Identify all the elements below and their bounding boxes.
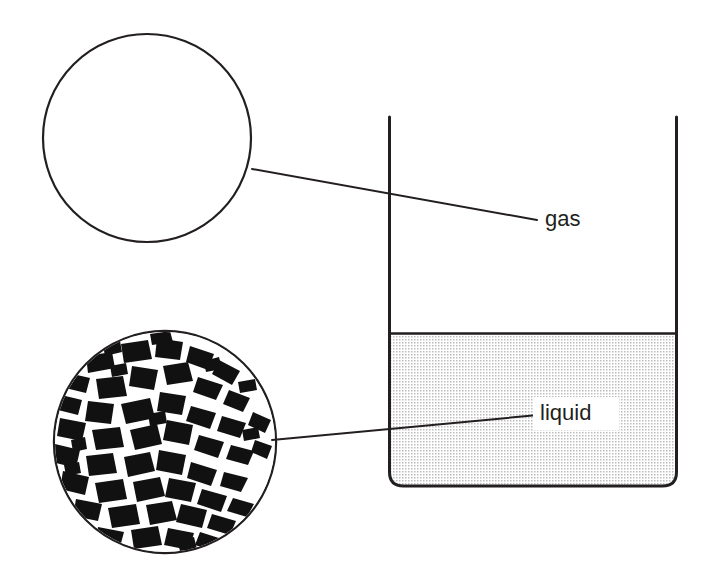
liquid-label-group: liquid xyxy=(533,397,619,430)
liquid-label: liquid xyxy=(540,400,591,425)
gas-label-group: gas xyxy=(545,206,580,231)
gas-leader-line xyxy=(252,169,537,220)
diagram-canvas: gas liquid xyxy=(0,0,712,574)
beaker-group xyxy=(386,117,680,489)
gas-label: gas xyxy=(545,206,580,231)
liquid-magnifier-circle xyxy=(52,331,276,553)
gas-magnifier-circle xyxy=(43,34,251,242)
phase-diagram-figure: gas liquid xyxy=(0,0,712,574)
